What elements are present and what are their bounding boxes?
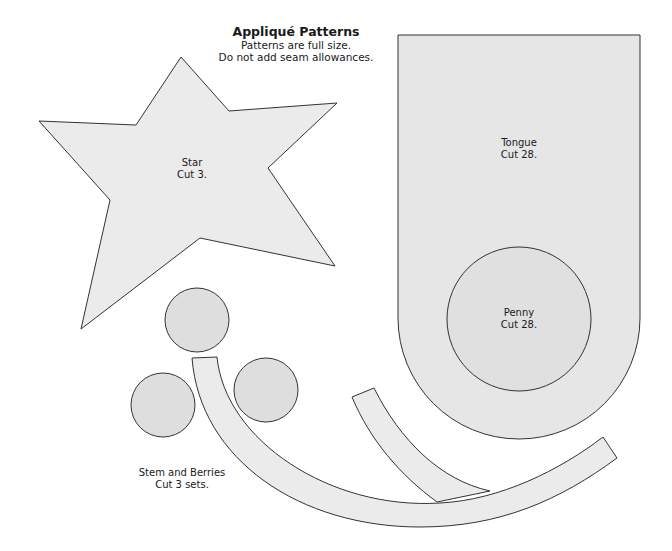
berry-top-shape xyxy=(165,288,229,352)
tongue-cut: Cut 28. xyxy=(501,149,537,161)
tongue-name: Tongue xyxy=(501,137,537,149)
star-cut: Cut 3. xyxy=(177,169,207,181)
subtitle-line1: Patterns are full size. xyxy=(219,39,374,51)
subtitle-line2: Do not add seam allowances. xyxy=(219,51,374,63)
star-shape xyxy=(39,57,337,329)
berry-left-shape xyxy=(131,373,195,437)
stem-berries-name: Stem and Berries xyxy=(139,467,226,479)
pattern-sheet xyxy=(0,0,672,551)
star-name: Star xyxy=(177,157,207,169)
header: Appliqué Patterns Patterns are full size… xyxy=(219,25,374,63)
penny-cut: Cut 28. xyxy=(501,319,537,331)
stem-berries-cut: Cut 3 sets. xyxy=(139,479,226,491)
stem-berries-label: Stem and Berries Cut 3 sets. xyxy=(139,467,226,491)
penny-name: Penny xyxy=(501,307,537,319)
tongue-label: Tongue Cut 28. xyxy=(501,137,537,161)
berry-right-shape xyxy=(234,358,298,422)
penny-label: Penny Cut 28. xyxy=(501,307,537,331)
star-label: Star Cut 3. xyxy=(177,157,207,181)
page-title: Appliqué Patterns xyxy=(219,25,374,39)
